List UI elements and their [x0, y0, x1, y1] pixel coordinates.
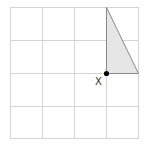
point-x-marker — [104, 71, 109, 76]
point-x-label: X — [95, 76, 102, 87]
diagram: X — [0, 0, 146, 146]
